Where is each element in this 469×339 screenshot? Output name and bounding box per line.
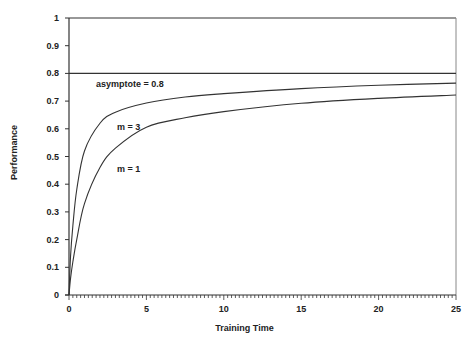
x-tick-label: 5 xyxy=(144,304,149,314)
series-label-m1: m = 1 xyxy=(117,164,140,174)
x-tick-label: 20 xyxy=(374,304,384,314)
series-line-m3 xyxy=(69,83,456,295)
series-label-m3: m = 3 xyxy=(117,122,140,132)
x-tick-label: 10 xyxy=(219,304,229,314)
x-tick-label: 25 xyxy=(451,304,461,314)
y-tick-label: 0.3 xyxy=(46,207,59,217)
y-axis: 00.10.20.30.40.50.60.70.80.91 xyxy=(46,13,69,300)
x-axis-title: Training Time xyxy=(215,323,273,333)
x-tick-label: 0 xyxy=(66,304,71,314)
y-tick-label: 0.8 xyxy=(46,68,59,78)
plot-frame xyxy=(69,18,456,295)
x-axis: 0510152025 xyxy=(65,295,461,314)
y-tick-label: 0.6 xyxy=(46,124,59,134)
chart: 00.10.20.30.40.50.60.70.80.91 0510152025… xyxy=(0,0,469,339)
y-tick-label: 0.4 xyxy=(46,179,59,189)
y-axis-title: Performance xyxy=(9,125,19,180)
y-tick-label: 0.9 xyxy=(46,41,59,51)
y-tick-label: 0.7 xyxy=(46,96,59,106)
x-tick-label: 15 xyxy=(296,304,306,314)
y-tick-label: 0.5 xyxy=(46,152,59,162)
y-tick-label: 1 xyxy=(54,13,59,23)
series-layer xyxy=(69,73,456,295)
y-tick-label: 0 xyxy=(54,290,59,300)
y-tick-label: 0.1 xyxy=(46,262,59,272)
y-tick-label: 0.2 xyxy=(46,235,59,245)
asymptote-label: asymptote = 0.8 xyxy=(96,79,164,89)
